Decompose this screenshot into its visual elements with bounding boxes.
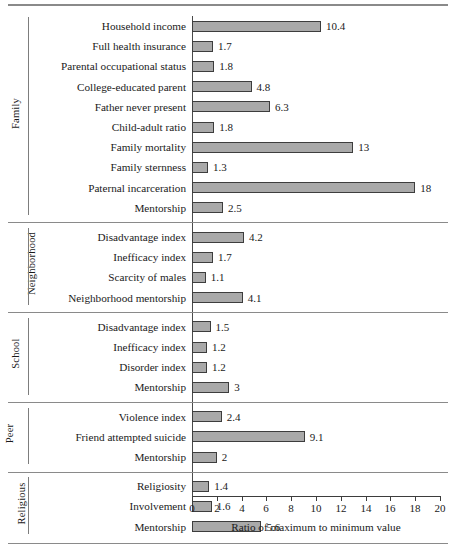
bar-value-label: 4.1 bbox=[248, 288, 262, 308]
bar-row-label: Mentorship bbox=[34, 447, 186, 467]
bar bbox=[192, 41, 213, 52]
group-label-text: Religious bbox=[16, 482, 27, 524]
bar-value-label: 6.3 bbox=[275, 97, 289, 117]
bar bbox=[192, 61, 214, 72]
bar bbox=[192, 382, 229, 393]
bar bbox=[192, 142, 353, 153]
bar-value-label: 10.4 bbox=[326, 16, 345, 36]
bar-row: Disadvantage index1.5 bbox=[0, 317, 455, 337]
bar-row: Inefficacy index1.2 bbox=[0, 337, 455, 357]
bar-row: Religiosity1.4 bbox=[0, 476, 455, 496]
group-label-peer: Peer bbox=[0, 428, 16, 439]
bar-row: Neighborhood mentorship4.1 bbox=[0, 288, 455, 308]
bar-row-label: Violence index bbox=[34, 407, 186, 427]
bar-row-label: College-educated parent bbox=[34, 77, 186, 97]
bar bbox=[192, 81, 252, 92]
bar-row: Paternal incarceration18 bbox=[0, 178, 455, 198]
bar-value-label: 9.1 bbox=[310, 427, 324, 447]
bar-row-label: Mentorship bbox=[34, 377, 186, 397]
bar bbox=[192, 202, 223, 213]
bar-value-label: 13 bbox=[358, 137, 369, 157]
bar-row-label: Family sternness bbox=[34, 157, 186, 177]
group-separator bbox=[8, 312, 448, 313]
bar-value-label: 1.7 bbox=[218, 36, 232, 56]
bar-row-label: Inefficacy index bbox=[34, 337, 186, 357]
bar bbox=[192, 431, 305, 442]
bar-value-label: 1.5 bbox=[216, 317, 230, 337]
group-label-text: Peer bbox=[4, 424, 15, 443]
group-bracket bbox=[28, 408, 29, 465]
bar-row-label: Neighborhood mentorship bbox=[34, 288, 186, 308]
bar bbox=[192, 411, 222, 422]
bar-row: Mentorship2.5 bbox=[0, 198, 455, 218]
x-axis-title: Ratio of maximum to minimum value bbox=[192, 521, 440, 533]
bar-row-label: Parental occupational status bbox=[34, 56, 186, 76]
bar-row: Mentorship3 bbox=[0, 377, 455, 397]
bar bbox=[192, 481, 209, 492]
bar-row-label: Father never present bbox=[34, 97, 186, 117]
group-label-religious: Religious bbox=[0, 498, 16, 509]
bar-row-label: Mentorship bbox=[34, 517, 186, 537]
bar-row: Disorder index1.2 bbox=[0, 357, 455, 377]
bar-row-label: Disadvantage index bbox=[34, 227, 186, 247]
bar-row-label: Child-adult ratio bbox=[34, 117, 186, 137]
bar-value-label: 2.5 bbox=[228, 198, 242, 218]
group-separator bbox=[8, 402, 448, 403]
bar bbox=[192, 122, 214, 133]
bar-value-label: 4.8 bbox=[257, 77, 271, 97]
bar-value-label: 4.2 bbox=[249, 227, 263, 247]
bar-value-label: 1.1 bbox=[211, 267, 225, 287]
bar bbox=[192, 101, 270, 112]
bar-value-label: 1.8 bbox=[219, 56, 233, 76]
bar bbox=[192, 232, 244, 243]
bar-row: Violence index2.4 bbox=[0, 407, 455, 427]
bar-chart: Household income10.4Full health insuranc… bbox=[0, 0, 455, 554]
bar-row-label: Mentorship bbox=[34, 198, 186, 218]
x-tick-label: 20 bbox=[425, 501, 455, 515]
group-separator bbox=[8, 472, 448, 473]
bar bbox=[192, 252, 213, 263]
bar-row-label: Disadvantage index bbox=[34, 317, 186, 337]
bar-row-label: Religiosity bbox=[34, 476, 186, 496]
group-bracket bbox=[28, 228, 29, 305]
bar-value-label: 1.8 bbox=[219, 117, 233, 137]
bar-value-label: 1.2 bbox=[212, 337, 226, 357]
bar-row: Friend attempted suicide9.1 bbox=[0, 427, 455, 447]
bar-row-label: Paternal incarceration bbox=[34, 178, 186, 198]
bar-row: Parental occupational status1.8 bbox=[0, 56, 455, 76]
group-bracket bbox=[28, 318, 29, 395]
bar-row-label: Household income bbox=[34, 16, 186, 36]
bar bbox=[192, 162, 208, 173]
bar-value-label: 18 bbox=[420, 178, 431, 198]
bar-row: College-educated parent4.8 bbox=[0, 77, 455, 97]
bottom-rule bbox=[8, 543, 448, 544]
bar bbox=[192, 452, 217, 463]
bar-row-label: Inefficacy index bbox=[34, 247, 186, 267]
group-label-text: Family bbox=[10, 98, 21, 129]
bar-row: Family mortality13 bbox=[0, 137, 455, 157]
group-label-text: School bbox=[10, 339, 21, 369]
bar-value-label: 3 bbox=[234, 377, 240, 397]
bar-row-label: Involvement bbox=[34, 496, 186, 516]
bar bbox=[192, 321, 211, 332]
bar-row: Mentorship2 bbox=[0, 447, 455, 467]
group-label-family: Family bbox=[0, 108, 16, 119]
bar-value-label: 2 bbox=[222, 447, 228, 467]
group-separator bbox=[8, 222, 448, 223]
bar-row-label: Disorder index bbox=[34, 357, 186, 377]
bar-value-label: 1.2 bbox=[212, 357, 226, 377]
bar-row: Scarcity of males1.1 bbox=[0, 267, 455, 287]
bar bbox=[192, 362, 207, 373]
group-label-school: School bbox=[0, 348, 16, 359]
bar-row: Household income10.4 bbox=[0, 16, 455, 36]
bar-value-label: 1.3 bbox=[213, 157, 227, 177]
group-bracket bbox=[28, 477, 29, 534]
bar-row-label: Scarcity of males bbox=[34, 267, 186, 287]
bar-row: Full health insurance1.7 bbox=[0, 36, 455, 56]
group-bracket bbox=[28, 17, 29, 215]
group-label-neighborhood: Neighborhood bbox=[0, 258, 16, 269]
bar bbox=[192, 292, 243, 303]
bar bbox=[192, 182, 415, 193]
bar-row: Inefficacy index1.7 bbox=[0, 247, 455, 267]
bar-row: Family sternness1.3 bbox=[0, 157, 455, 177]
